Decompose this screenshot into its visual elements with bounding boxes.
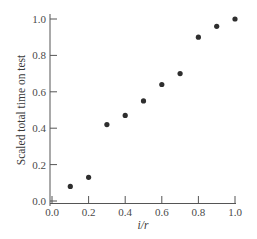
data-point <box>104 122 109 127</box>
y-axis-ticks: 0.00.20.40.60.81.0 <box>32 13 57 207</box>
x-tick-label: 1.0 <box>228 206 242 218</box>
y-tick-label: 0.4 <box>32 122 46 134</box>
x-axis: 0.00.20.40.60.81.0 <box>45 196 242 218</box>
data-point <box>68 184 73 189</box>
y-tick-label: 0.2 <box>32 159 46 171</box>
x-tick-label: 0.4 <box>118 206 132 218</box>
data-point <box>159 82 164 87</box>
data-point <box>232 16 237 21</box>
data-point <box>214 24 219 29</box>
data-point <box>178 71 183 76</box>
y-tick-label: 0.8 <box>32 49 46 61</box>
y-tick-label: 1.0 <box>32 13 46 25</box>
x-tick-label: 0.8 <box>192 206 206 218</box>
y-axis: 0.00.20.40.60.81.0 <box>32 13 57 207</box>
x-tick-label: 0.0 <box>45 206 59 218</box>
scatter-chart: 0.00.20.40.60.81.0 0.00.20.40.60.81.0 i/… <box>0 0 257 239</box>
data-point <box>141 98 146 103</box>
x-tick-label: 0.2 <box>82 206 96 218</box>
x-axis-label: i/r <box>138 219 149 231</box>
data-points <box>68 16 238 189</box>
data-point <box>196 35 201 40</box>
x-axis-ticks: 0.00.20.40.60.81.0 <box>45 196 242 218</box>
x-tick-label: 0.6 <box>155 206 169 218</box>
y-tick-label: 0.6 <box>32 86 46 98</box>
data-point <box>86 175 91 180</box>
y-axis-label: Scaled total time on test <box>15 54 27 165</box>
data-point <box>123 113 128 118</box>
